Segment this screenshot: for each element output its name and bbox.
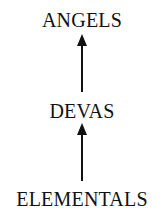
arrow-elementals-to-devas xyxy=(81,133,83,181)
node-elementals: ELEMENTALS xyxy=(0,189,164,209)
node-devas: DEVAS xyxy=(0,101,164,121)
node-angels: ANGELS xyxy=(0,10,164,30)
arrow-devas-to-angels xyxy=(81,44,83,92)
